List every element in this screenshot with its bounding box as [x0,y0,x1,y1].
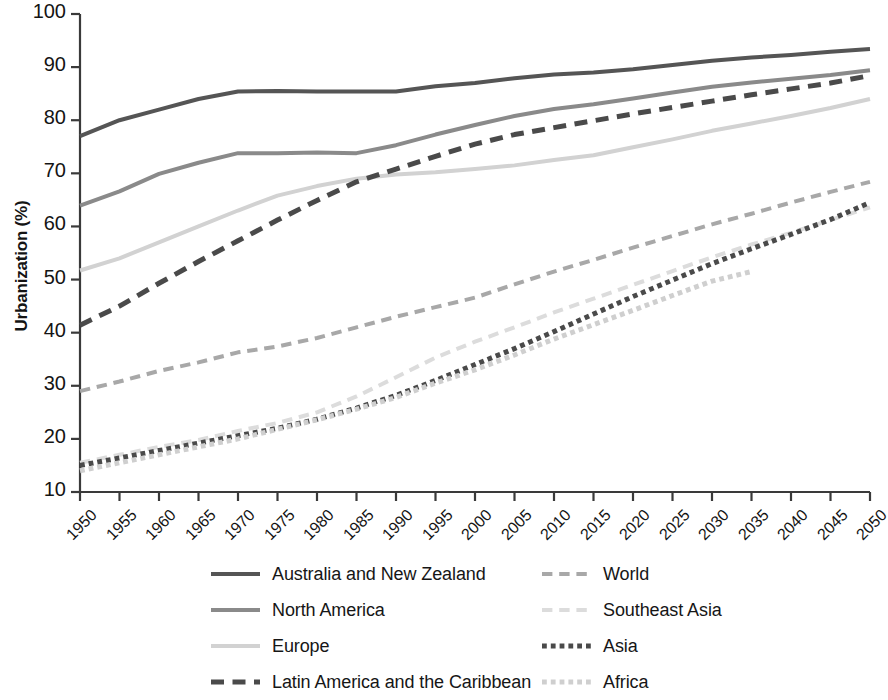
legend-line-sample-icon [211,675,260,689]
legend-item-label: North America [272,600,385,621]
legend-line-sample-icon [211,567,260,581]
chart-legend: Australia and New ZealandNorth AmericaEu… [0,556,888,700]
legend-item-label: Latin America and the Caribbean [272,672,531,693]
series-line-southeast-asia [80,207,870,462]
series-line-africa [80,272,752,471]
legend-item[interactable]: Southeast Asia [542,592,722,628]
y-axis-tick-label: 60 [0,213,66,233]
legend-item-label: Europe [272,636,329,657]
legend-line-sample-icon [211,603,260,617]
legend-line-sample-icon [542,603,591,617]
legend-item[interactable]: North America [211,592,385,628]
y-axis-tick-label: 10 [0,479,66,499]
legend-item-label: Asia [603,636,638,657]
legend-item-label: Africa [603,672,648,693]
y-axis-tick-label: 100 [0,1,66,21]
urbanization-line-chart: Urbanization (%) 100908070605040302010 1… [0,0,888,700]
legend-item[interactable]: Africa [542,664,648,700]
y-axis-tick-label: 50 [0,267,66,287]
legend-line-sample-icon [542,567,591,581]
legend-item[interactable]: Europe [211,628,329,664]
legend-item-label: World [603,564,649,585]
legend-line-sample-icon [542,675,591,689]
series-line-asia [80,203,870,466]
series-line-north-america [80,70,870,205]
y-axis-tick-label: 90 [0,54,66,74]
legend-line-sample-icon [542,639,591,653]
legend-item-label: Southeast Asia [603,600,722,621]
series-line-world [80,182,870,391]
y-axis-tick-label: 20 [0,426,66,446]
legend-item-label: Australia and New Zealand [272,564,486,585]
y-axis-tick-label: 40 [0,320,66,340]
y-axis-tick-label: 30 [0,373,66,393]
legend-line-sample-icon [211,639,260,653]
series-line-latin-america-and-the-caribbean [80,76,870,326]
legend-item[interactable]: Latin America and the Caribbean [211,664,531,700]
legend-item[interactable]: Australia and New Zealand [211,556,486,592]
y-axis-tick-label: 70 [0,160,66,180]
y-axis-tick-label: 80 [0,107,66,127]
legend-item[interactable]: Asia [542,628,638,664]
legend-item[interactable]: World [542,556,649,592]
